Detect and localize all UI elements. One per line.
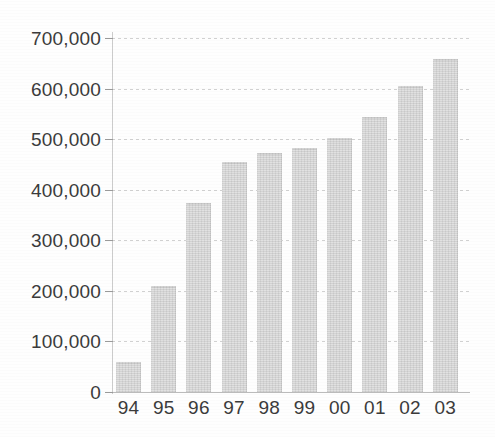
x-axis-tick-label: 99 <box>292 398 317 417</box>
plot-area <box>112 38 482 392</box>
y-axis-tick-label: 600,000 <box>5 79 101 98</box>
x-axis-tick-label: 94 <box>116 398 141 417</box>
x-axis-tick-label: 03 <box>433 398 458 417</box>
y-axis-tick-label: 500,000 <box>5 130 101 149</box>
y-axis-tick <box>105 291 113 292</box>
bar-02 <box>398 86 423 392</box>
x-axis-tick-label: 97 <box>222 398 247 417</box>
bar-chart: 700,000600,000500,000400,000300,000200,0… <box>0 0 495 437</box>
y-axis-tick-label: 0 <box>5 383 101 402</box>
bar-01 <box>362 117 387 392</box>
bar-97 <box>222 162 247 392</box>
bar-98 <box>257 153 282 392</box>
bar-03 <box>433 59 458 392</box>
x-axis-tick-label: 01 <box>362 398 387 417</box>
x-axis-tick-label: 96 <box>186 398 211 417</box>
y-axis-tick-labels: 700,000600,000500,000400,000300,000200,0… <box>0 0 101 437</box>
y-axis-tick <box>105 190 113 191</box>
bar-94 <box>116 362 141 392</box>
y-axis-tick <box>105 392 113 393</box>
x-axis-tick-label: 95 <box>151 398 176 417</box>
y-axis-tick <box>105 89 113 90</box>
y-axis-tick <box>105 240 113 241</box>
x-axis-tick-label: 02 <box>398 398 423 417</box>
y-axis-tick-label: 200,000 <box>5 281 101 300</box>
gridline <box>112 38 470 39</box>
bar-00 <box>327 138 352 392</box>
bar-96 <box>186 203 211 392</box>
x-axis-tick-label: 98 <box>257 398 282 417</box>
y-axis-tick <box>105 341 113 342</box>
y-axis-tick-label: 300,000 <box>5 231 101 250</box>
y-axis-tick <box>105 139 113 140</box>
y-axis-tick-label: 400,000 <box>5 180 101 199</box>
y-axis-tick <box>105 38 113 39</box>
bar-95 <box>151 286 176 392</box>
bar-99 <box>292 148 317 392</box>
y-axis-tick-label: 700,000 <box>5 29 101 48</box>
x-axis-tick-label: 00 <box>327 398 352 417</box>
y-axis-tick-label: 100,000 <box>5 332 101 351</box>
axis-baseline <box>112 392 470 393</box>
